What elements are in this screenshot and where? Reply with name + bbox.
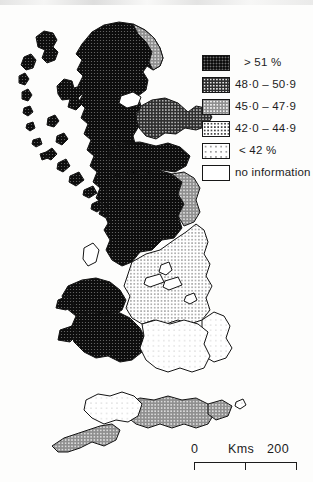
legend-label-42-44: 42·0 – 44·9 (235, 123, 296, 135)
scale-tick-end (296, 462, 297, 470)
legend-label-no-information: no information (235, 167, 311, 179)
scale-label-unit: Kms (228, 443, 254, 456)
scale-tick-mid (245, 462, 246, 470)
legend-label-45-47: 45·0 – 47·9 (235, 101, 296, 113)
legend-label-48-50: 48·0 – 50·9 (235, 79, 296, 91)
legend-row-over-51: > 51 % (202, 52, 313, 74)
scale-rule (191, 462, 301, 471)
legend-swatch-48-50 (202, 77, 230, 93)
legend-row-under-42: < 42 % (202, 140, 313, 162)
region-isle-of-man (83, 243, 99, 266)
legend-swatch-over-51 (202, 55, 230, 71)
region-south-east-tail (208, 400, 232, 420)
scale-tick-start (194, 462, 195, 470)
map-figure: > 51 % 48·0 – 50·9 45·0 – 47·9 42·0 – 44… (0, 0, 313, 482)
region-offshore-islet (235, 399, 246, 409)
legend-row-no-information: no information (202, 162, 313, 184)
map-legend: > 51 % 48·0 – 50·9 45·0 – 47·9 42·0 – 44… (202, 52, 313, 184)
legend-row-48-50: 48·0 – 50·9 (202, 74, 313, 96)
distance-scale: 0 Kms 200 (191, 443, 301, 471)
region-south-east-england (140, 320, 210, 372)
legend-label-under-42: < 42 % (239, 145, 276, 157)
legend-label-over-51: > 51 % (244, 57, 281, 69)
legend-row-45-47: 45·0 – 47·9 (202, 96, 313, 118)
region-outer-hebrides (19, 31, 58, 160)
region-eastern-scotland (136, 98, 212, 139)
scale-label-max: 200 (267, 443, 289, 456)
legend-row-42-44: 42·0 – 44·9 (202, 118, 313, 140)
scale-label-zero: 0 (191, 443, 198, 456)
legend-swatch-no-information (202, 165, 230, 181)
region-cornwall (52, 424, 120, 452)
scale-labels: 0 Kms 200 (191, 443, 301, 459)
legend-swatch-42-44 (202, 121, 230, 137)
legend-swatch-under-42 (202, 143, 230, 159)
region-south-west-england (84, 392, 142, 424)
legend-swatch-45-47 (202, 99, 230, 115)
